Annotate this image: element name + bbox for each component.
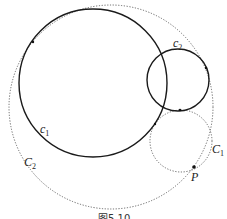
label-C1: C1 [212,142,224,158]
circle-c2 [147,49,209,111]
geometry-figure: c1 c2 C1 C2 P 图5.10 [0,0,227,219]
circle-C1-dotted [150,110,212,172]
label-c1: c1 [40,122,49,138]
label-P: P [190,170,199,184]
label-C2: C2 [24,155,36,171]
tangent-dot [32,41,34,43]
point-P-marker [192,165,196,169]
figure-caption: 图5.10 [98,213,130,219]
tangent-dot [205,67,207,69]
tangent-dot [154,123,156,125]
circle-C2-dotted [9,5,213,209]
label-c2: c2 [173,36,182,52]
tangent-dot [179,109,181,111]
